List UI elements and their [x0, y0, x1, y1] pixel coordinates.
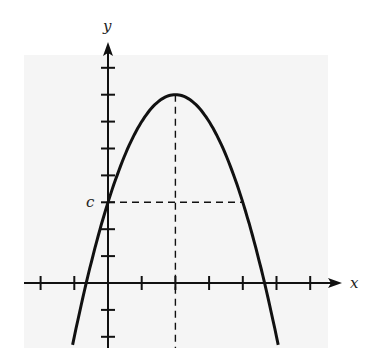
- parabola-chart: y x c: [0, 0, 376, 359]
- c-intercept-label: c: [86, 193, 95, 211]
- x-axis-label: x: [350, 274, 359, 292]
- y-axis-label: y: [102, 17, 112, 35]
